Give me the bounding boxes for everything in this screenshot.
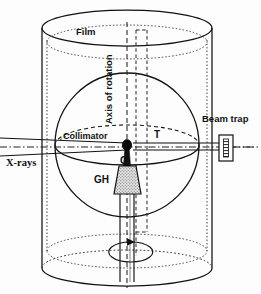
beam-trap [219,135,256,161]
label-turntable: T [154,129,160,140]
beam-trap-absorber [224,139,229,157]
goniometer-head-body [114,166,141,194]
label-crystal: C [120,155,127,166]
crystal-point [122,140,131,151]
label-xrays: X-rays [6,157,36,168]
label-goniometer-head: GH [94,174,109,185]
label-beam-trap: Beam trap [202,113,248,124]
diagram-canvas [0,0,261,294]
rotation-direction-arrow [109,242,153,262]
rotation-arrow-arc [109,242,153,262]
x-ray-camera-diagram: Film Axis of rotation Collimator T C GH … [0,0,261,294]
label-axis-of-rotation: Axis of rotation [103,54,114,124]
label-film: Film [76,26,96,37]
label-collimator: Collimator [63,131,108,141]
